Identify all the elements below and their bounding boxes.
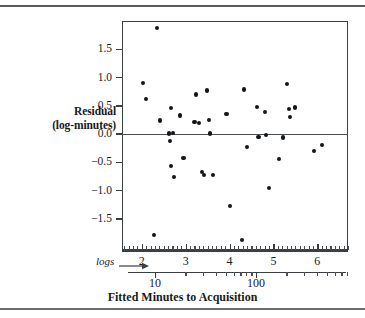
y-tick-label: 1.5 <box>78 43 112 55</box>
x-tick-raw-minor <box>327 272 328 276</box>
data-point <box>267 186 271 190</box>
y-tick-mark <box>116 218 122 219</box>
x-axis-title: Fitted Minutes to Acquisition <box>0 290 365 305</box>
x-tick-label-raw: 100 <box>239 276 273 291</box>
x-tick-raw-minor <box>304 272 305 276</box>
data-point <box>224 112 228 116</box>
y-tick-label: −1.5 <box>78 213 112 225</box>
y-tick-label: −1.0 <box>78 185 112 197</box>
x-tick-label-raw: 10 <box>138 276 172 291</box>
x-axis-raw-line <box>128 272 346 273</box>
x-tick-raw-minor <box>234 272 235 276</box>
x-tick-minor <box>348 246 349 250</box>
logs-annotation: logs <box>96 255 114 267</box>
x-tick-label-log: 4 <box>220 254 240 269</box>
data-point <box>320 143 324 147</box>
zero-reference-line <box>122 134 348 135</box>
y-tick-label: 0.0 <box>78 128 112 140</box>
y-tick-mark <box>116 162 122 163</box>
y-tick-mark <box>116 49 122 50</box>
data-point <box>171 131 175 135</box>
data-point <box>281 135 285 139</box>
plot-frame <box>122 21 348 250</box>
x-tick-raw-minor <box>216 272 217 276</box>
x-tick-raw-minor <box>203 272 204 276</box>
y-tick-label: 1.0 <box>78 72 112 84</box>
x-tick-label-log: 6 <box>307 254 327 269</box>
data-point <box>158 118 162 122</box>
y-tick-label: −0.5 <box>78 156 112 168</box>
x-axis-log-line <box>122 250 348 252</box>
y-tick-mark <box>116 133 122 134</box>
x-tick-label-log: 5 <box>263 254 283 269</box>
x-tick-raw-minor <box>226 272 227 276</box>
data-point <box>194 92 198 96</box>
data-point <box>152 233 156 237</box>
x-tick-raw-minor <box>341 272 342 276</box>
data-point <box>192 120 196 124</box>
data-point <box>207 118 211 122</box>
x-tick-raw-minor <box>286 272 287 276</box>
data-point <box>256 135 260 139</box>
data-point <box>208 131 212 135</box>
y-tick-mark <box>116 190 122 191</box>
x-tick-raw-minor <box>185 272 186 276</box>
x-tick-raw-minor <box>317 272 318 276</box>
data-point <box>211 173 215 177</box>
residual-scatter-figure: Residual (log-minutes) 1.51.00.50.0−0.5−… <box>0 0 365 318</box>
right-arrow-icon <box>119 262 149 270</box>
y-tick-label: 0.5 <box>78 100 112 112</box>
y-tick-mark <box>116 77 122 78</box>
data-point <box>202 173 206 177</box>
data-point <box>263 110 267 114</box>
data-point <box>172 175 176 179</box>
x-tick-raw-minor <box>347 272 348 276</box>
data-point <box>169 106 173 110</box>
x-tick-label-log: 3 <box>176 254 196 269</box>
data-point <box>205 88 209 92</box>
y-tick-mark <box>116 105 122 106</box>
data-point <box>242 87 246 91</box>
x-tick-raw-minor <box>335 272 336 276</box>
data-point <box>178 113 182 117</box>
